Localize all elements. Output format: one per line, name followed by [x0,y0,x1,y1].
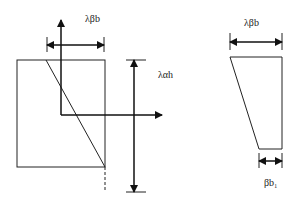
height-dimension-label: λαh [158,69,173,80]
diagram-canvas: λβb λαh λβb βb₁ [0,0,300,203]
bottom-dimension-label: βb₁ [264,177,278,188]
top-width-dimension: λβb [230,17,282,50]
width-dimension: λβb [47,13,104,52]
neutral-axis-line [46,60,105,167]
left-cross-section: λβb λαh [17,13,173,192]
top-dimension-label: λβb [244,17,259,28]
right-stress-block: λβb βb₁ [230,17,282,188]
width-dimension-label: λβb [85,13,100,24]
bottom-width-dimension: βb₁ [259,153,282,188]
trapezoid-stress-block [230,57,282,149]
height-dimension: λαh [126,60,173,192]
